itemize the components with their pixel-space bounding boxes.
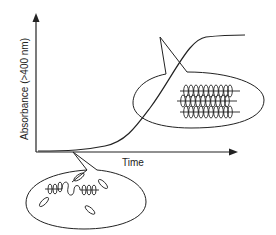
aggregation-diagram: Absorbance (>400 nm) Time xyxy=(0,0,276,235)
plateau-callout xyxy=(133,37,264,128)
y-axis-arrow-icon xyxy=(33,13,40,22)
x-axis-label: Time xyxy=(122,157,144,168)
x-axis xyxy=(36,149,238,156)
fibril-rows xyxy=(177,85,240,118)
x-axis-arrow-icon xyxy=(229,149,238,156)
y-axis-label: Absorbance (>400 nm) xyxy=(19,38,30,140)
y-axis xyxy=(33,13,40,152)
